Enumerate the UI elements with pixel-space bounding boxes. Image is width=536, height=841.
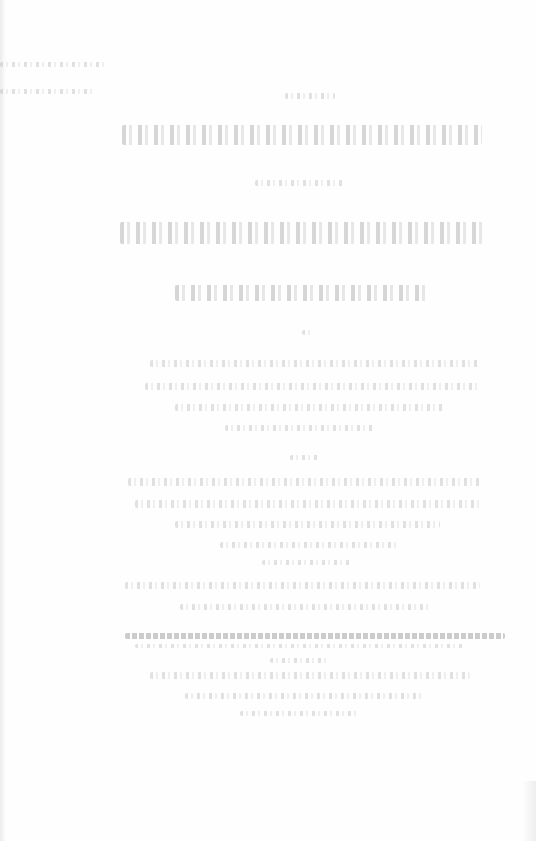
- faded-text-line: [135, 500, 480, 508]
- scan-edge-left: [0, 0, 6, 841]
- scan-edge-corner: [522, 781, 536, 841]
- faded-text-line: [135, 644, 465, 648]
- faded-text-line: [145, 383, 480, 390]
- faded-text-line: [150, 360, 480, 367]
- faded-text-line: [0, 89, 95, 94]
- faded-text-line: [120, 222, 485, 244]
- faded-text-line: [220, 542, 400, 548]
- faded-text-line: [125, 633, 505, 639]
- faded-text-line: [150, 672, 470, 679]
- faded-text-line: [302, 330, 314, 335]
- faded-text-line: [175, 404, 445, 411]
- faded-text-line: [0, 62, 105, 67]
- document-page: text too faded to read: [0, 0, 536, 841]
- faded-text-line: [128, 478, 480, 486]
- faded-text-line: [255, 180, 345, 186]
- faded-text-line: [290, 455, 320, 460]
- faded-text-line: [122, 125, 482, 145]
- faded-text-line: [175, 521, 440, 528]
- faded-text-line: [180, 604, 430, 610]
- faded-text-line: [175, 285, 430, 301]
- faded-text-line: [125, 582, 480, 589]
- faded-text-line: [270, 658, 330, 663]
- faded-text-line: [240, 711, 360, 716]
- faded-text-line: [225, 425, 375, 431]
- faded-text-line: [262, 560, 352, 565]
- faded-text-line: [185, 693, 425, 699]
- faded-text-line: [285, 93, 335, 99]
